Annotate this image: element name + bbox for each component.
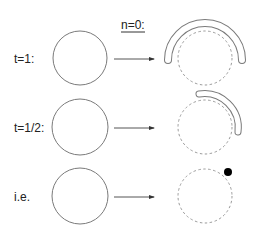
band-arc-outline	[168, 23, 242, 60]
point-dot	[224, 168, 232, 176]
dashed-circle	[178, 169, 232, 223]
row-label: t=1:	[14, 52, 34, 66]
row-t-half: t=1/2:	[14, 94, 238, 155]
header-label: n=0:	[121, 18, 145, 32]
row-label: i.e.	[14, 190, 30, 204]
half-band-arc-fill	[199, 94, 238, 132]
source-circle	[52, 168, 108, 224]
dashed-circle	[178, 31, 232, 85]
source-circle	[52, 99, 108, 155]
diagram-canvas: n=0: t=1: t=1/2: i.e.	[0, 0, 258, 236]
source-circle	[53, 31, 107, 85]
row-label: t=1/2:	[14, 121, 44, 135]
dashed-circle	[178, 100, 232, 154]
row-ie: i.e.	[14, 168, 232, 224]
